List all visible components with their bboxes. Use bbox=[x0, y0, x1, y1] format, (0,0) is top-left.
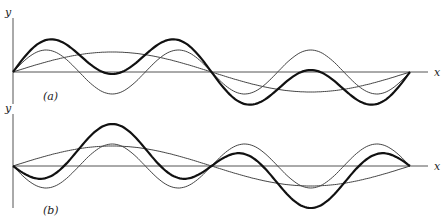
y-axis-label-b: y bbox=[4, 102, 12, 115]
panel-b: y x (b) bbox=[4, 102, 441, 217]
panel-label-a: (a) bbox=[43, 90, 58, 103]
x-axis-label-a: x bbox=[434, 66, 441, 79]
panel-label-b: (b) bbox=[43, 204, 59, 217]
y-axis-label-a: y bbox=[4, 6, 12, 19]
panel-a: y x (a) bbox=[4, 6, 441, 105]
x-axis-label-b: x bbox=[434, 160, 441, 173]
wave-superposition-figure: y x (a) y x (b) bbox=[0, 0, 448, 222]
